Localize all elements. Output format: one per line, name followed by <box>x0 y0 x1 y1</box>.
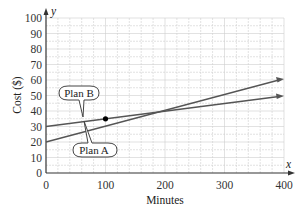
svg-text:40: 40 <box>31 105 43 117</box>
svg-text:80: 80 <box>31 43 43 55</box>
x-tick-labels: 0 100 200 300 400 <box>43 179 293 191</box>
x-axis-title: Minutes <box>146 194 184 206</box>
svg-text:90: 90 <box>31 28 43 40</box>
svg-text:50: 50 <box>31 90 43 102</box>
svg-text:Plan B: Plan B <box>64 87 94 99</box>
x-axis-arrow-icon <box>288 171 295 176</box>
y-axis-title: Cost ($) <box>11 76 24 114</box>
svg-text:100: 100 <box>25 12 43 24</box>
intersection-point <box>103 116 108 121</box>
svg-text:10: 10 <box>31 152 43 164</box>
svg-text:20: 20 <box>31 136 43 148</box>
svg-text:0: 0 <box>36 167 42 179</box>
svg-text:300: 300 <box>216 179 234 191</box>
svg-text:Plan A: Plan A <box>79 144 109 156</box>
svg-text:100: 100 <box>97 179 115 191</box>
y-axis-arrow-icon <box>44 8 49 15</box>
y-tick-labels: 0 10 20 30 40 50 60 70 80 90 100 <box>25 12 43 179</box>
svg-text:400: 400 <box>275 179 293 191</box>
plan-b-callout: Plan B <box>59 86 99 117</box>
svg-text:0: 0 <box>43 179 49 191</box>
svg-text:200: 200 <box>156 179 174 191</box>
plan-b-arrow-icon <box>276 94 284 100</box>
y-var-label: y <box>50 5 57 18</box>
svg-text:30: 30 <box>31 121 43 133</box>
chart-canvas: y x 0 10 20 30 40 50 60 70 80 90 100 0 1… <box>0 0 306 211</box>
svg-text:70: 70 <box>31 59 43 71</box>
svg-text:60: 60 <box>31 74 43 86</box>
x-var-label: x <box>285 158 292 170</box>
